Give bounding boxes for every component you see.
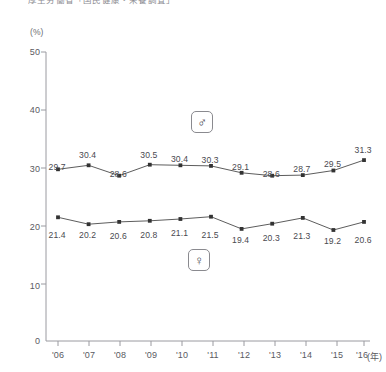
x-axis-ticks xyxy=(58,341,364,346)
data-point-value-label: 20.8 xyxy=(140,230,157,240)
data-point-value-label: 29.5 xyxy=(324,159,341,169)
data-point-value-label: 21.5 xyxy=(202,230,219,240)
x-tick-label-08: '08 xyxy=(106,350,134,360)
data-point-marker xyxy=(362,158,366,162)
data-point-value-label: 19.2 xyxy=(324,236,341,246)
female-series-line xyxy=(58,217,364,230)
male-symbol-badge: ♂ xyxy=(191,111,213,133)
data-point-value-label: 20.6 xyxy=(355,235,372,245)
data-point-marker xyxy=(209,215,213,219)
data-point-value-label: 30.4 xyxy=(171,154,188,164)
x-tick-label-09: '09 xyxy=(137,350,165,360)
x-tick-label-07: '07 xyxy=(75,350,103,360)
data-point-value-label: 28.6 xyxy=(263,169,280,179)
x-tick-label-10: '10 xyxy=(168,350,196,360)
data-point-marker xyxy=(240,227,244,231)
plot-area xyxy=(0,0,386,372)
data-point-marker xyxy=(87,163,91,167)
data-point-marker xyxy=(362,220,366,224)
data-point-marker xyxy=(87,222,91,226)
data-point-value-label: 30.4 xyxy=(79,150,96,160)
data-point-value-label: 29.1 xyxy=(232,162,249,172)
data-point-value-label: 30.3 xyxy=(202,155,219,165)
female-symbol-icon: ♀ xyxy=(194,254,204,267)
x-tick-label-11: '11 xyxy=(199,350,227,360)
male-symbol-icon: ♂ xyxy=(197,116,207,129)
female-symbol-badge: ♀ xyxy=(188,249,210,271)
data-point-value-label: 20.2 xyxy=(79,230,96,240)
data-point-marker xyxy=(270,222,274,226)
data-point-value-label: 29.7 xyxy=(49,162,66,172)
data-point-marker xyxy=(332,228,336,232)
data-point-value-label: 21.3 xyxy=(293,231,310,241)
x-tick-label-13: '13 xyxy=(261,350,289,360)
x-tick-label-15: '15 xyxy=(323,350,351,360)
data-point-value-label: 21.1 xyxy=(171,228,188,238)
data-point-value-label: 31.3 xyxy=(355,145,372,155)
x-tick-label-06: '06 xyxy=(44,350,72,360)
chart-figure: 厚生労働省「国民健康・栄養調査」 (%) 50 40 30 20 10 0 xyxy=(0,0,386,372)
data-point-value-label: 20.6 xyxy=(110,231,127,241)
x-tick-label-12: '12 xyxy=(230,350,258,360)
x-tick-label-14: '14 xyxy=(292,350,320,360)
data-point-value-label: 19.4 xyxy=(232,235,249,245)
data-point-marker xyxy=(148,219,152,223)
data-point-marker xyxy=(117,220,121,224)
data-point-marker xyxy=(56,215,60,219)
data-point-marker xyxy=(301,216,305,220)
data-point-marker xyxy=(179,217,183,221)
data-point-value-label: 28.7 xyxy=(293,164,310,174)
data-point-value-label: 21.4 xyxy=(49,230,66,240)
data-point-marker xyxy=(148,163,152,167)
data-point-value-label: 30.5 xyxy=(140,150,157,160)
x-axis-unit-label: (年) xyxy=(367,350,382,363)
data-point-value-label: 28.6 xyxy=(110,169,127,179)
data-point-value-label: 20.3 xyxy=(263,233,280,243)
